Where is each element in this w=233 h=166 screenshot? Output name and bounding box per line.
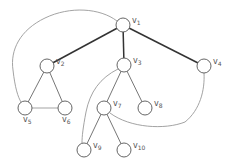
node-v3: v3 — [117, 56, 142, 72]
node-label: v10 — [133, 141, 146, 151]
edges — [12, 10, 204, 150]
graph-svg: v1v2v3v4v5v6v7v8v9v10 — [0, 0, 233, 166]
node-label: v3 — [133, 56, 142, 66]
node-label: v9 — [93, 141, 102, 151]
node-v10: v10 — [117, 141, 146, 157]
node-circle — [18, 101, 32, 115]
node-circle — [117, 58, 131, 72]
node-v8: v8 — [138, 99, 163, 115]
node-circle — [117, 143, 131, 157]
node-v9: v9 — [77, 141, 102, 157]
node-v4: v4 — [197, 57, 222, 73]
node-circle — [116, 18, 130, 32]
node-circle — [40, 59, 54, 73]
node-label: v4 — [213, 57, 222, 67]
node-v6: v6 — [58, 101, 72, 125]
node-circle — [77, 143, 91, 157]
node-label: v2 — [56, 57, 65, 67]
node-circle — [197, 59, 211, 73]
node-label: v5 — [23, 115, 32, 125]
node-label: v1 — [132, 16, 141, 26]
node-v1: v1 — [116, 16, 141, 32]
node-label: v6 — [62, 115, 71, 125]
node-v2: v2 — [40, 57, 65, 73]
node-v7: v7 — [97, 99, 122, 115]
node-circle — [58, 101, 72, 115]
graph-diagram: v1v2v3v4v5v6v7v8v9v10 — [0, 0, 233, 166]
node-label: v8 — [154, 99, 163, 109]
node-circle — [138, 101, 152, 115]
node-circle — [97, 101, 111, 115]
node-v5: v5 — [18, 101, 32, 125]
node-label: v7 — [113, 99, 122, 109]
nodes: v1v2v3v4v5v6v7v8v9v10 — [18, 16, 222, 157]
